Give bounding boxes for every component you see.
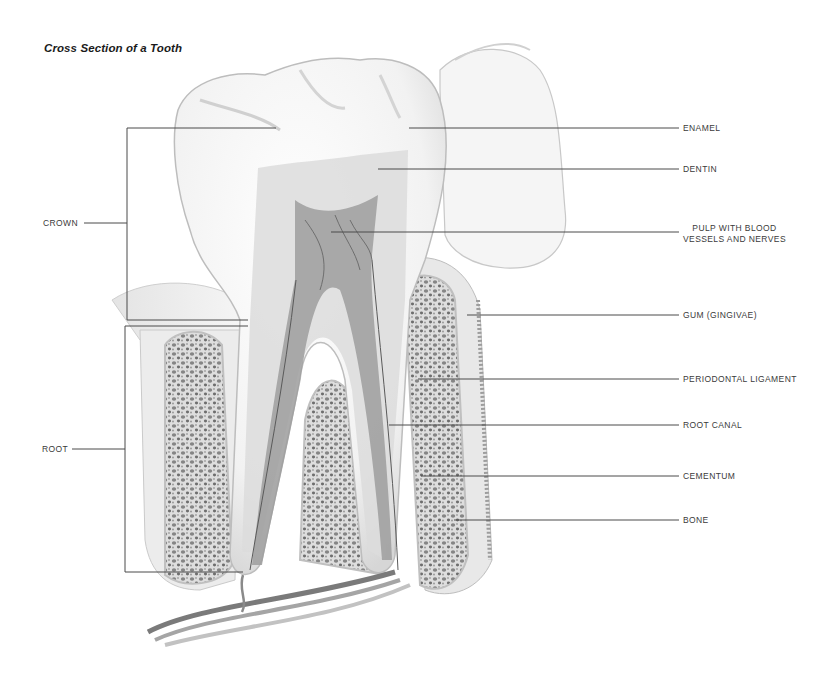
tooth-illustration <box>0 0 838 689</box>
label-cementum: CEMENTUM <box>683 471 735 482</box>
label-root: ROOT <box>42 444 68 455</box>
label-periodontal-ligament: PERIODONTAL LIGAMENT <box>683 374 797 385</box>
label-pulp-line1: PULP WITH BLOOD <box>683 223 786 234</box>
label-pulp: PULP WITH BLOOD VESSELS AND NERVES <box>683 223 786 245</box>
bone-left <box>165 332 232 584</box>
label-enamel: ENAMEL <box>683 123 720 134</box>
label-bone: BONE <box>683 515 709 526</box>
label-dentin: DENTIN <box>683 164 717 175</box>
label-crown: CROWN <box>43 218 78 229</box>
label-root-canal: ROOT CANAL <box>683 420 742 431</box>
label-pulp-line2: VESSELS AND NERVES <box>683 234 786 245</box>
neighbor-tooth <box>440 44 566 268</box>
label-gum: GUM (GINGIVAE) <box>683 310 757 321</box>
